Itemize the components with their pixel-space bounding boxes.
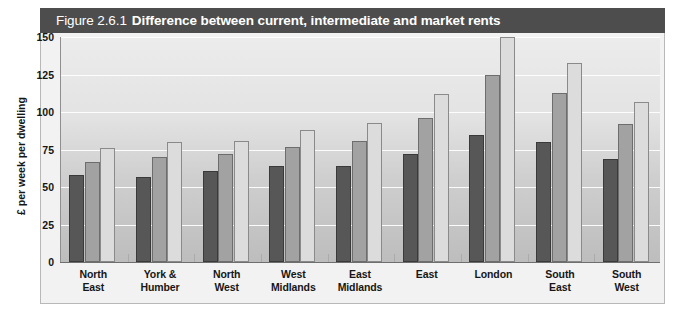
bar: [485, 75, 500, 263]
x-axis-category-label: SouthEast: [527, 268, 594, 294]
bar: [285, 147, 300, 263]
y-axis-tick-label: 50: [28, 181, 54, 193]
bar: [100, 148, 115, 262]
bar: [203, 171, 218, 263]
x-axis-line: [60, 262, 660, 263]
y-axis-tick-label: 100: [28, 106, 54, 118]
y-axis-tick-label: 125: [28, 69, 54, 81]
bar: [603, 159, 618, 263]
figure-title: Difference between current, intermediate…: [132, 13, 501, 28]
bar: [500, 37, 515, 262]
bar: [618, 124, 633, 262]
bar: [136, 177, 151, 263]
gridline: [61, 37, 660, 38]
y-axis: 0255075100125150: [24, 0, 54, 313]
bar: [536, 142, 551, 262]
bar: [469, 135, 484, 263]
x-axis-category-label: NorthWest: [193, 268, 260, 294]
bar: [434, 94, 449, 262]
x-axis-category-label-line: East: [327, 268, 394, 281]
bar: [418, 118, 433, 262]
x-axis-category-label-line: East: [60, 281, 127, 294]
x-axis-category-label-line: West: [260, 268, 327, 281]
x-axis-category-label-line: South: [527, 268, 594, 281]
x-axis-category-label-line: West: [593, 281, 660, 294]
category-separator: [128, 254, 129, 262]
bar: [367, 123, 382, 263]
x-axis-category-label-line: West: [193, 281, 260, 294]
y-axis-tick-label: 25: [28, 219, 54, 231]
plot-area: [60, 37, 660, 262]
x-axis-category-label: East: [393, 268, 460, 281]
bar: [300, 130, 315, 262]
x-axis-category-label-line: East: [527, 281, 594, 294]
x-axis-category-label: NorthEast: [60, 268, 127, 294]
bar: [336, 166, 351, 262]
bar: [167, 142, 182, 262]
bar: [403, 154, 418, 262]
bar: [69, 175, 84, 262]
bar: [634, 102, 649, 263]
y-axis-tick-label: 0: [28, 256, 54, 268]
x-axis-category-label: WestMidlands: [260, 268, 327, 294]
x-axis-category-label: York &Humber: [127, 268, 194, 294]
category-separator: [461, 254, 462, 262]
x-axis-category-label-line: East: [393, 268, 460, 281]
bar: [85, 162, 100, 263]
y-axis-tick-label: 75: [28, 144, 54, 156]
y-axis-tick-label: 150: [28, 31, 54, 43]
x-axis-category-label: EastMidlands: [327, 268, 394, 294]
x-axis-category-label-line: North: [60, 268, 127, 281]
y-axis-title: £ per week per dwelling: [15, 71, 27, 241]
bar: [552, 93, 567, 263]
x-axis-category-label-line: South: [593, 268, 660, 281]
x-axis-category-label-line: London: [460, 268, 527, 281]
bar: [234, 141, 249, 263]
bar: [352, 141, 367, 263]
category-separator: [261, 254, 262, 262]
category-separator: [528, 254, 529, 262]
figure-number: Figure 2.6.1: [56, 13, 127, 28]
category-separator: [394, 254, 395, 262]
bar: [152, 157, 167, 262]
x-axis-category-label-line: North: [193, 268, 260, 281]
figure-title-bar: Figure 2.6.1 Difference between current,…: [40, 8, 665, 33]
x-axis-category-label: SouthWest: [593, 268, 660, 294]
figure-container: Figure 2.6.1 Difference between current,…: [0, 0, 691, 313]
bar: [567, 63, 582, 263]
x-axis-category-label: London: [460, 268, 527, 281]
bar: [269, 166, 284, 262]
x-axis-category-label-line: Midlands: [327, 281, 394, 294]
x-axis-category-label-line: Humber: [127, 281, 194, 294]
x-axis-category-label-line: Midlands: [260, 281, 327, 294]
category-separator: [328, 254, 329, 262]
category-separator: [194, 254, 195, 262]
category-separator: [594, 254, 595, 262]
bar: [218, 154, 233, 262]
x-axis-category-label-line: York &: [127, 268, 194, 281]
